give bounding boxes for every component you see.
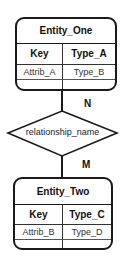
entity-two-empty-cell <box>63 239 112 250</box>
entity-two-empty-cell <box>15 239 63 250</box>
entity-two-attr-type: Type_D <box>63 224 112 239</box>
entity-two-header-key: Key <box>15 205 63 224</box>
cardinality-m: M <box>82 159 90 170</box>
entity-two[interactable]: Entity_Two Key Type_C Attrib_B Type_D <box>13 177 113 250</box>
entity-two-attributes: Key Type_C Attrib_B Type_D <box>15 205 111 250</box>
connector-bottom <box>61 156 63 178</box>
entity-two-title: Entity_Two <box>15 179 111 205</box>
entity-two-header-type: Type_C <box>63 205 112 224</box>
entity-two-attr-name: Attrib_B <box>15 224 63 239</box>
relationship-name: relationship_name <box>0 127 125 137</box>
